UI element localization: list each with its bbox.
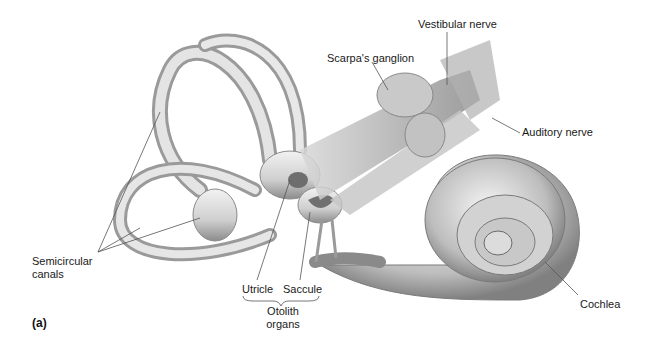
label-saccule: Saccule <box>283 283 322 296</box>
label-otolith-organs: Otolith organs <box>258 305 308 331</box>
panel-label: (a) <box>32 316 47 330</box>
label-vestibular-nerve: Vestibular nerve <box>418 18 497 31</box>
label-semicircular-line2: canals <box>32 268 93 281</box>
label-semicircular-line1: Semicircular <box>32 255 93 268</box>
label-auditory-nerve: Auditory nerve <box>522 126 593 139</box>
label-scarpas-ganglion: Scarpa's ganglion <box>327 52 414 65</box>
label-otolith-line2: organs <box>258 318 308 331</box>
label-utricle: Utricle <box>242 283 273 296</box>
label-otolith-line1: Otolith <box>258 305 308 318</box>
inner-ear-figure: Vestibular nerve Scarpa's ganglion Audit… <box>0 0 653 346</box>
label-semicircular-canals: Semicircular canals <box>32 255 93 281</box>
label-cochlea: Cochlea <box>580 298 620 311</box>
